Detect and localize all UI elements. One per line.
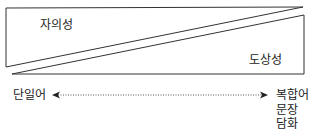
scale-right-label-compound: 복합어 [276,88,309,103]
scale-right-label-sentence: 문장 [276,103,309,118]
scale-left-label: 단일어 [13,88,46,102]
arbitrariness-label: 자의성 [40,18,73,32]
scale-right-labels: 복합어 문장 담화 [276,88,309,132]
iconicity-label: 도상성 [249,53,282,67]
scale-right-label-discourse: 담화 [276,117,309,132]
